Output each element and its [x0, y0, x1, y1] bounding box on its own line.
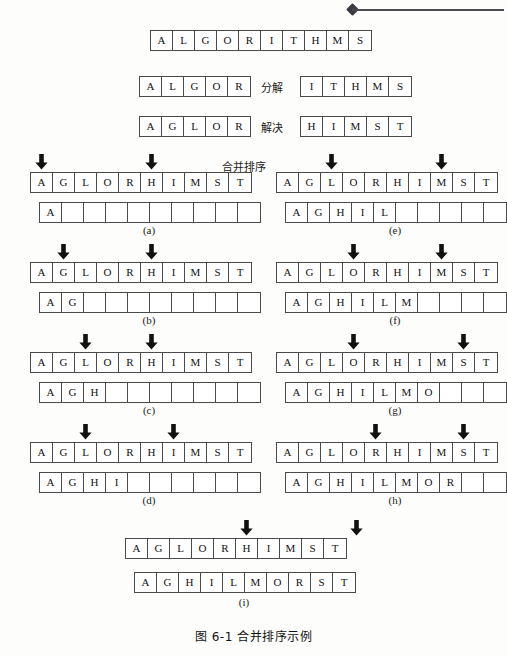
array-cell: G [162, 117, 184, 136]
array-cell: L [75, 443, 97, 462]
right-pointer-arrow-icon [145, 334, 158, 350]
panel-d-label: (d) [39, 494, 259, 506]
array-cell: T [389, 117, 411, 136]
left-pointer-arrow-icon [57, 244, 70, 260]
array-cell: S [453, 173, 475, 192]
array-cell [128, 203, 150, 222]
array-cell: R [365, 173, 387, 192]
array-cell: M [396, 473, 418, 492]
array-cell [216, 473, 238, 492]
panel-b-right-array: HIMST [140, 262, 252, 283]
array-cell [462, 383, 484, 402]
panel-e-right-array: HIMST [386, 172, 498, 193]
array-cell: I [163, 263, 185, 282]
array-cell: A [277, 263, 299, 282]
array-cell: A [140, 117, 162, 136]
array-cell: L [223, 573, 245, 592]
panel-g-left-array: AGLOR [276, 352, 388, 373]
array-cell: S [311, 573, 333, 592]
panel-h-label: (h) [285, 494, 505, 506]
array-cell: T [229, 443, 251, 462]
array-cell: L [374, 383, 396, 402]
array-cell: M [431, 173, 453, 192]
array-cell: G [53, 353, 75, 372]
array-cell [484, 293, 506, 312]
conquer-right-array: HIMST [300, 116, 412, 137]
panel-h-left-array: AGLOR [276, 442, 388, 463]
panel-f-left-array: AGLOR [276, 262, 388, 283]
panel-c-right-array: HIMST [140, 352, 252, 373]
right-pointer-arrow-icon [457, 424, 470, 440]
array-cell [238, 383, 260, 402]
array-cell: R [365, 353, 387, 372]
array-cell: T [475, 173, 497, 192]
right-pointer-arrow-icon [350, 520, 363, 536]
array-cell: R [228, 77, 250, 96]
array-cell: M [431, 443, 453, 462]
array-cell: O [418, 383, 440, 402]
array-cell: L [374, 473, 396, 492]
array-cell: R [440, 473, 462, 492]
array-cell: I [106, 473, 128, 492]
array-cell: T [475, 263, 497, 282]
array-cell: H [330, 293, 352, 312]
array-cell: A [135, 573, 157, 592]
array-cell: O [97, 353, 119, 372]
array-cell [128, 473, 150, 492]
panel-c-output-array: AGH [39, 382, 261, 403]
array-cell: S [389, 77, 411, 96]
array-cell: I [163, 443, 185, 462]
panel-a-output-array: A [39, 202, 261, 223]
array-cell: A [40, 473, 62, 492]
panel-b-label: (b) [39, 314, 259, 326]
array-cell: H [141, 353, 163, 372]
array-cell: I [163, 353, 185, 372]
array-cell [106, 383, 128, 402]
array-cell: L [321, 173, 343, 192]
array-cell [238, 203, 260, 222]
array-cell: I [201, 573, 223, 592]
array-cell: A [31, 263, 53, 282]
array-cell: A [286, 473, 308, 492]
array-cell: R [119, 263, 141, 282]
array-cell: G [157, 573, 179, 592]
array-cell: S [207, 443, 229, 462]
array-cell [238, 293, 260, 312]
array-cell [194, 383, 216, 402]
panel-i-left-array: AGLOR [125, 538, 237, 559]
left-pointer-arrow-icon [325, 154, 338, 170]
array-cell: M [396, 383, 418, 402]
array-cell: M [431, 353, 453, 372]
conquer-label: 解决 [261, 119, 283, 135]
array-cell: T [324, 539, 346, 558]
array-cell: M [185, 173, 207, 192]
array-cell: H [141, 263, 163, 282]
array-cell: L [162, 77, 184, 96]
array-cell: A [277, 443, 299, 462]
array-cell: A [277, 353, 299, 372]
array-cell [418, 203, 440, 222]
panel-g-output-array: AGHILMO [285, 382, 507, 403]
array-cell: G [62, 473, 84, 492]
array-cell: T [283, 31, 305, 50]
array-cell: L [75, 353, 97, 372]
panel-f-right-array: HIMST [386, 262, 498, 283]
array-cell [150, 383, 172, 402]
array-cell: G [53, 173, 75, 192]
array-cell: O [97, 263, 119, 282]
array-cell [172, 383, 194, 402]
array-cell [462, 473, 484, 492]
array-cell [216, 293, 238, 312]
array-cell: R [365, 263, 387, 282]
array-cell [418, 293, 440, 312]
panel-i-label: (i) [134, 596, 354, 608]
left-pointer-arrow-icon [79, 334, 92, 350]
array-cell: H [387, 173, 409, 192]
array-cell: S [302, 539, 324, 558]
array-cell [62, 203, 84, 222]
panel-e-left-array: AGLOR [276, 172, 388, 193]
array-cell: T [229, 263, 251, 282]
array-cell: H [84, 383, 106, 402]
array-cell: G [53, 443, 75, 462]
panel-a-left-array: AGLOR [30, 172, 142, 193]
